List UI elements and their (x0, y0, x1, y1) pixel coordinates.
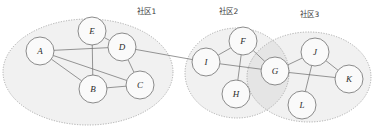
node-label-E: E (88, 26, 95, 36)
node-E[interactable]: E (78, 17, 106, 45)
node-A[interactable]: A (26, 37, 54, 65)
node-L[interactable]: L (288, 91, 316, 119)
node-label-K: K (345, 74, 353, 84)
community-label-c1: 社区1 (137, 6, 156, 16)
node-label-F: F (239, 36, 246, 46)
diagram-canvas: ABCDEIFHGJKL 社区1社区2社区3 (0, 0, 376, 135)
node-label-C: C (137, 80, 144, 90)
node-label-G: G (272, 66, 279, 76)
node-label-L: L (298, 100, 304, 110)
node-K[interactable]: K (335, 65, 363, 93)
node-C[interactable]: C (126, 71, 154, 99)
node-G[interactable]: G (261, 57, 289, 85)
node-D[interactable]: D (108, 33, 136, 61)
community-label-c2: 社区2 (219, 6, 238, 16)
node-label-H: H (232, 89, 240, 99)
node-J[interactable]: J (301, 38, 329, 66)
node-label-B: B (90, 84, 96, 94)
node-B[interactable]: B (79, 75, 107, 103)
node-F[interactable]: F (229, 27, 257, 55)
node-label-A: A (36, 46, 43, 56)
node-H[interactable]: H (222, 80, 250, 108)
node-label-D: D (118, 42, 126, 52)
node-I[interactable]: I (192, 48, 220, 76)
community-graph-svg: ABCDEIFHGJKL 社区1社区2社区3 (0, 0, 376, 135)
community-label-layer: 社区1社区2社区3 (137, 6, 319, 19)
community-label-c3: 社区3 (300, 9, 319, 19)
